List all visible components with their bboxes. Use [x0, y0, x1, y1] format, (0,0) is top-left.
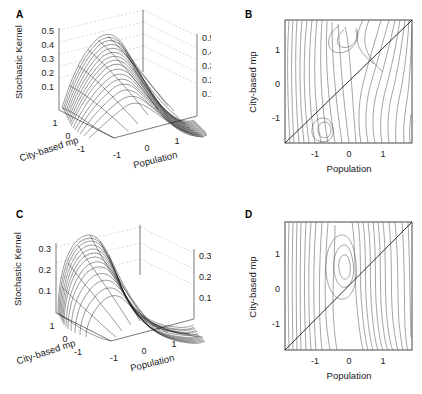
svg-text:0.5: 0.5 [41, 26, 54, 36]
panel-b-plot: 1 0 -1 City-based mp -1 0 1 Population [211, 0, 422, 197]
svg-text:0: 0 [141, 346, 146, 356]
svg-text:0: 0 [275, 284, 280, 294]
y-axis-title: City-based mp [18, 134, 80, 163]
z-axis-title: Stochastic Kernel [12, 232, 23, 306]
svg-text:0.2: 0.2 [202, 75, 211, 85]
figure-panel-grid: A [0, 0, 422, 394]
svg-text:0.2: 0.2 [38, 265, 51, 275]
panel-b: B [211, 0, 422, 197]
svg-text:1: 1 [380, 356, 385, 366]
svg-text:0.4: 0.4 [202, 47, 211, 57]
svg-text:1: 1 [275, 249, 280, 259]
panel-a-plot: 0.5 0.4 0.3 0.2 0.1 0.5 0.4 0.3 0.2 0.1 … [0, 0, 211, 197]
x-axis-title: Population [327, 370, 372, 381]
svg-text:0.1: 0.1 [202, 89, 211, 99]
x-axis-ticks: -1 0 1 [311, 149, 386, 159]
svg-text:0: 0 [346, 356, 351, 366]
z-axis-title: Stochastic Kernel [13, 25, 24, 99]
svg-text:1: 1 [380, 149, 385, 159]
y-axis-title: City-based mp [247, 256, 258, 317]
svg-text:-1: -1 [272, 319, 280, 329]
panel-c: C [0, 197, 211, 394]
svg-text:0.1: 0.1 [41, 82, 54, 92]
svg-text:0.1: 0.1 [199, 293, 211, 303]
panel-d: D [211, 197, 422, 394]
svg-text:0.2: 0.2 [199, 272, 211, 282]
svg-text:0.1: 0.1 [38, 286, 51, 296]
svg-text:0.3: 0.3 [38, 244, 51, 254]
svg-text:0.3: 0.3 [41, 54, 54, 64]
svg-text:-1: -1 [77, 144, 85, 154]
svg-text:0.3: 0.3 [199, 251, 211, 261]
svg-text:1: 1 [49, 321, 54, 331]
svg-text:1: 1 [171, 339, 176, 349]
panel-a: A [0, 0, 211, 197]
svg-text:0: 0 [346, 149, 351, 159]
svg-text:1: 1 [52, 118, 57, 128]
svg-text:0: 0 [144, 143, 149, 153]
x-axis-title: Population [132, 149, 178, 171]
svg-text:1: 1 [275, 45, 280, 55]
svg-text:0.4: 0.4 [41, 40, 54, 50]
y-axis-ticks: 1 0 -1 [272, 249, 280, 329]
svg-text:0: 0 [275, 79, 280, 89]
svg-text:-1: -1 [272, 113, 280, 123]
panel-c-plot: 0.3 0.2 0.1 0.3 0.2 0.1 Stochastic Kerne… [0, 197, 211, 394]
y-axis-title: City-based mp [15, 337, 77, 366]
svg-text:-1: -1 [110, 353, 118, 363]
z-axis-ticks-left: 0.3 0.2 0.1 [38, 244, 51, 296]
z-axis-ticks-left: 0.5 0.4 0.3 0.2 0.1 [41, 26, 54, 92]
y-axis-ticks: 1 0 -1 [272, 45, 280, 123]
x-axis-ticks: -1 0 1 [311, 356, 386, 366]
svg-text:-1: -1 [311, 356, 319, 366]
y-axis-title: City-based mp [247, 51, 258, 112]
z-axis-ticks-right: 0.3 0.2 0.1 [199, 251, 211, 303]
surface-mesh [58, 235, 205, 343]
x-axis-title: Population [129, 352, 175, 374]
svg-text:-1: -1 [113, 150, 121, 160]
z-axis-ticks-right: 0.5 0.4 0.3 0.2 0.1 [202, 33, 211, 99]
axis-lines [56, 225, 194, 341]
x-axis-title: Population [327, 163, 372, 174]
svg-text:1: 1 [174, 136, 179, 146]
panel-d-plot: 1 0 -1 City-based mp -1 0 1 Population [211, 197, 422, 394]
svg-text:-1: -1 [74, 347, 82, 357]
grid-lines [56, 227, 194, 285]
svg-text:0.3: 0.3 [202, 61, 211, 71]
svg-text:-1: -1 [311, 149, 319, 159]
svg-text:0.2: 0.2 [41, 68, 54, 78]
svg-text:0.5: 0.5 [202, 33, 211, 43]
